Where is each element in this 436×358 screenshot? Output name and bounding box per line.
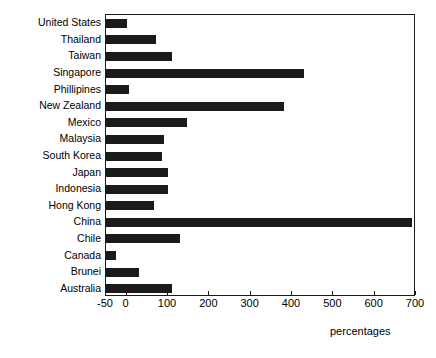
tick-label: 600 [364, 298, 382, 309]
tick-label: 700 [406, 298, 424, 309]
tick-mark [208, 291, 209, 295]
category-label: South Korea [1, 150, 101, 161]
category-label: Indonesia [1, 183, 101, 194]
bar [106, 168, 168, 177]
tick-label: 200 [199, 298, 217, 309]
bar [106, 118, 187, 127]
tick-mark [415, 291, 416, 295]
bar [106, 234, 180, 243]
category-label: Malaysia [1, 133, 101, 144]
category-label: Canada [1, 250, 101, 261]
category-label: Australia [1, 283, 101, 294]
category-label: Chile [1, 233, 101, 244]
tick-mark [105, 291, 106, 295]
tick-mark [291, 291, 292, 295]
category-label: Taiwan [1, 50, 101, 61]
tick-label: -50 [97, 298, 113, 309]
tick-label: 400 [282, 298, 300, 309]
bar [106, 135, 164, 144]
category-label: Mexico [1, 117, 101, 128]
category-label: China [1, 216, 101, 227]
bar [106, 185, 168, 194]
category-label: United States [1, 17, 101, 28]
category-axis-labels: United StatesThailandTaiwanSingaporePhil… [0, 14, 101, 296]
tick-label: 300 [240, 298, 258, 309]
tick-mark [250, 291, 251, 295]
tick-label: 100 [158, 298, 176, 309]
bar [106, 152, 162, 161]
x-axis-title: percentages [330, 326, 391, 337]
category-label: Brunei [1, 266, 101, 277]
tick-label: 0 [123, 298, 129, 309]
bar [106, 52, 172, 61]
tick-mark [332, 291, 333, 295]
value-axis-ticks: -500100200300400500600700 [105, 296, 415, 316]
tick-label: 500 [323, 298, 341, 309]
bar [106, 201, 154, 210]
category-label: Thailand [1, 34, 101, 45]
bar [106, 19, 127, 28]
category-label: Hong Kong [1, 200, 101, 211]
bar [106, 251, 116, 260]
bar-chart: United StatesThailandTaiwanSingaporePhil… [0, 0, 436, 358]
bar [106, 35, 156, 44]
plot-area [105, 14, 415, 296]
bar [106, 268, 139, 277]
tick-mark [167, 291, 168, 295]
bar [106, 284, 172, 293]
category-label: New Zealand [1, 100, 101, 111]
category-label: Japan [1, 167, 101, 178]
bar [106, 69, 304, 78]
bar [106, 85, 129, 94]
category-label: Singapore [1, 67, 101, 78]
bar [106, 102, 284, 111]
category-label: Phillipines [1, 84, 101, 95]
bar [106, 218, 412, 227]
tick-mark [126, 291, 127, 295]
tick-mark [374, 291, 375, 295]
